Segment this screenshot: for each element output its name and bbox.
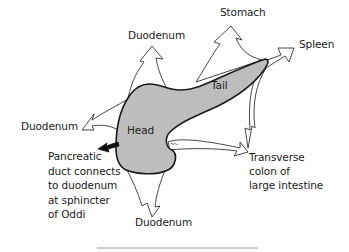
- label-stomach: Stomach: [220, 6, 266, 20]
- label-spleen: Spleen: [299, 38, 334, 52]
- pancreas-relations-diagram: Duodenum Stomach Spleen Duodenum Duodenu…: [0, 0, 349, 252]
- label-duodenum-top: Duodenum: [128, 29, 185, 43]
- label-head: Head: [127, 124, 154, 138]
- label-pancreatic-duct: Pancreatic duct connects to duodenum at …: [48, 149, 121, 222]
- arrow-to-duodenum-bottom: [126, 168, 166, 217]
- label-duodenum-bottom: Duodenum: [135, 216, 192, 230]
- label-duodenum-left: Duodenum: [21, 120, 78, 134]
- label-tail: Tail: [211, 79, 228, 93]
- label-transverse-colon: Transverse colon of large intestine: [249, 150, 323, 192]
